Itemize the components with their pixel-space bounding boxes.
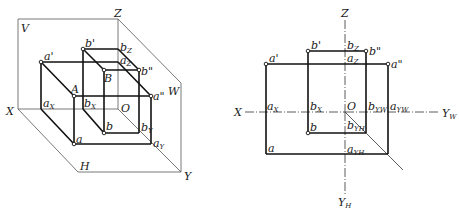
label-a-prime-right: a': [269, 52, 279, 65]
label-a-double: a": [153, 90, 165, 103]
label-ax-right: aX: [267, 100, 280, 114]
label-ayh: aYH: [347, 143, 365, 157]
b-prime-to-B: [83, 49, 104, 70]
label-a: a: [76, 133, 83, 146]
label-b-double-right: b": [369, 45, 381, 58]
label-az: aZ: [120, 54, 132, 68]
point-b-double-right: [364, 49, 368, 53]
point-a-double-right: [386, 62, 390, 66]
label-w-plane: W: [168, 85, 181, 98]
label-bz: bZ: [120, 41, 132, 55]
label-origin: O: [121, 102, 130, 115]
left-pictorial-figure: V Z X H Y W O a' b' A B b" a" b a aX bX …: [5, 7, 193, 183]
label-a-prime: a': [44, 50, 54, 63]
label-a-right: a: [268, 142, 275, 155]
label-v-plane: V: [21, 22, 30, 35]
label-z-right: Z: [340, 7, 349, 20]
label-byw: bYW: [368, 100, 388, 114]
label-yw-axis: YW: [442, 107, 457, 121]
y-axis: [118, 109, 181, 172]
label-h-plane: H: [79, 160, 90, 173]
bx-to-b: [83, 109, 104, 133]
label-bx-right: bX: [310, 100, 323, 114]
label-x-axis: X: [5, 105, 15, 118]
label-B: B: [103, 72, 112, 85]
point-a-prime: [39, 60, 43, 64]
label-bz-right: bZ: [347, 39, 359, 53]
label-b-prime: b': [85, 37, 95, 50]
label-a-double-right: a": [391, 58, 403, 71]
label-yh-axis: YH: [338, 196, 352, 210]
label-by: bY: [141, 121, 154, 135]
a-prime-to-A: [41, 62, 74, 96]
label-b-double: b": [141, 65, 153, 78]
label-b-prime-right: b': [311, 39, 321, 52]
label-b: b: [106, 120, 113, 133]
label-ay: aY: [153, 137, 166, 151]
label-A: A: [70, 83, 79, 96]
label-ax: aX: [43, 97, 56, 111]
point-b-prime-right: [306, 49, 310, 53]
label-b-right: b: [310, 121, 317, 134]
projection-diagram: V Z X H Y W O a' b' A B b" a" b a aX bX …: [0, 0, 459, 218]
label-y-axis: Y: [184, 170, 193, 183]
label-byh: bYH: [347, 119, 366, 133]
right-orthographic-figure: Z X O YW YH a' b' b" a" b a aX bX bZ aZ …: [233, 7, 457, 210]
label-ayw: aYW: [390, 100, 409, 114]
label-az-right: aZ: [347, 52, 359, 66]
point-a-prime-right: [264, 62, 268, 66]
label-bx: bX: [84, 97, 97, 111]
label-origin-right: O: [347, 100, 356, 113]
label-x-right: X: [233, 106, 243, 119]
label-z-axis: Z: [113, 7, 122, 20]
